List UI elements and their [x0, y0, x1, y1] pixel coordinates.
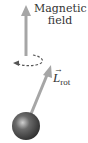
spinning-particle-sphere [12, 112, 40, 140]
magnetic-field-arrow [21, 5, 31, 56]
vector-arrow-icon: → [54, 64, 63, 74]
field-label-line2: field [34, 15, 86, 27]
magnetic-field-diagram: Magnetic field → Lrot [0, 0, 88, 143]
magnetic-field-label: Magnetic field [34, 3, 86, 27]
angular-momentum-subscript: rot [60, 77, 70, 87]
precession-dashed-arrow [13, 55, 42, 66]
angular-momentum-label: → Lrot [53, 70, 70, 87]
angular-momentum-arrow [31, 65, 52, 114]
